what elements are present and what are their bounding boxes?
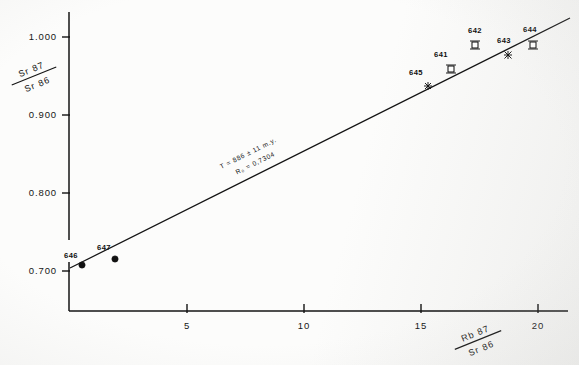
x-ticklabel-15: 15 <box>415 320 427 331</box>
data-point-645[interactable]: 645 <box>409 68 432 90</box>
data-point-label: 647 <box>97 243 111 252</box>
data-point-644[interactable]: 644 <box>523 25 538 49</box>
data-point-label: 642 <box>468 26 482 35</box>
x-ticklabel-10: 10 <box>298 320 310 331</box>
y-ticklabel-0800: 0.800 <box>29 187 57 198</box>
y-axis-title-denominator: Sr 86 <box>23 75 52 94</box>
marker-star <box>504 51 512 59</box>
marker-open-square <box>448 66 454 72</box>
x-ticklabel-5: 5 <box>184 320 190 331</box>
y-ticklabel-1000: 1.000 <box>29 31 57 42</box>
isochron-regression-line <box>70 18 570 268</box>
marker-open-square <box>472 42 478 48</box>
data-point-label: 644 <box>523 25 537 34</box>
line-annotations: T = 886 ± 11 m.y. R₀ = 0,7304 <box>219 136 283 181</box>
data-point-label: 645 <box>409 68 423 77</box>
marker-filled-circle <box>79 262 85 268</box>
data-point-label: 643 <box>497 36 511 45</box>
x-ticklabels-group: 5 10 15 20 <box>184 320 544 331</box>
data-point-label: 646 <box>64 251 78 260</box>
marker-filled-circle <box>112 256 118 262</box>
data-point-641[interactable]: 641 <box>434 50 456 73</box>
isochron-plot: 1.000 0.900 0.800 0.700 5 10 15 20 Sr 87… <box>0 0 579 365</box>
x-axis-title: Rb 87 Sr 86 <box>450 320 506 363</box>
data-point-label: 641 <box>434 50 448 59</box>
marker-star <box>424 82 432 90</box>
x-axis-title-denominator: Sr 86 <box>467 339 496 358</box>
x-ticklabel-20: 20 <box>532 320 544 331</box>
marker-open-square <box>530 42 536 48</box>
y-axis-title: Sr 87 Sr 86 <box>7 56 61 98</box>
data-point-642[interactable]: 642 <box>468 26 482 49</box>
y-ticklabel-0700: 0.700 <box>29 265 57 276</box>
isochron-figure: 1.000 0.900 0.800 0.700 5 10 15 20 Sr 87… <box>0 0 579 365</box>
y-ticklabel-0900: 0.900 <box>29 109 57 120</box>
